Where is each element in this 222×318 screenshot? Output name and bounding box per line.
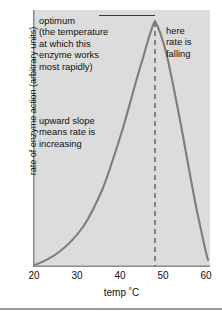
plot-area: optimum (the temperature at which this e… bbox=[33, 10, 210, 267]
x-axis-label: temp ˚C bbox=[33, 287, 210, 299]
annotation-optimum: optimum (the temperature at which this e… bbox=[39, 15, 135, 72]
x-tick-20: 20 bbox=[21, 270, 47, 282]
x-tick-30: 30 bbox=[64, 270, 90, 282]
enzyme-temperature-figure: optimum (the temperature at which this e… bbox=[0, 0, 222, 318]
annotation-falling: here rate is falling bbox=[166, 25, 212, 59]
x-tick-50: 50 bbox=[150, 270, 176, 282]
x-tick-40: 40 bbox=[107, 270, 133, 282]
x-tick-60: 60 bbox=[193, 270, 219, 282]
y-axis-label: rate of enzyme action (arbitrary units) bbox=[28, 6, 38, 196]
bottom-divider bbox=[0, 308, 222, 310]
annotation-upward-slope: upward slope means rate is increasing bbox=[39, 115, 131, 149]
